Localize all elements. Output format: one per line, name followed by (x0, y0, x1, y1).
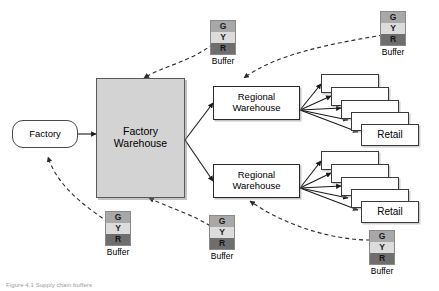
buffer-band-red: R (210, 238, 234, 249)
buffer-factory: G Y R Buffer (105, 211, 131, 257)
node-factory: Factory (12, 120, 78, 148)
buffer-band-yellow: Y (210, 227, 234, 238)
node-regional-warehouse-top: Regional Warehouse (213, 86, 300, 120)
retail-stack-top-front: Retail (361, 124, 419, 146)
buffer-band-green: G (211, 21, 235, 32)
buffer-stack: G Y R (380, 11, 406, 46)
buffer-band-yellow: Y (106, 223, 130, 234)
buffer-caption: Buffer (374, 47, 406, 57)
node-factory-label: Factory (29, 129, 61, 140)
retail-top-label: Retail (377, 129, 403, 140)
buffer-band-red: R (381, 34, 405, 45)
buffer-band-green: G (381, 12, 405, 23)
buffer-stack: G Y R (209, 215, 235, 250)
node-factory-warehouse-label: Factory Warehouse (114, 126, 167, 150)
buffer-stack: G Y R (105, 211, 131, 246)
buffer-stack: G Y R (210, 20, 236, 55)
buffer-band-green: G (210, 216, 234, 227)
buffer-caption: Buffer (363, 266, 395, 276)
buffer-band-green: G (370, 231, 394, 242)
buffer-band-red: R (211, 43, 235, 54)
node-regional-warehouse-bottom: Regional Warehouse (213, 164, 300, 198)
buffer-band-green: G (106, 212, 130, 223)
supply-chain-diagram: Factory Factory Warehouse Regional Wareh… (0, 0, 439, 291)
figure-caption: Figure 4.1 Supply chain buffers (6, 282, 92, 288)
node-factory-warehouse: Factory Warehouse (96, 78, 185, 198)
buffer-regional-top: G Y R Buffer (380, 11, 406, 57)
buffer-band-red: R (106, 234, 130, 245)
retail-stack-bottom-front: Retail (361, 201, 419, 223)
node-regional-warehouse-bottom-label: Regional Warehouse (232, 170, 280, 191)
retail-bottom-label: Retail (377, 206, 403, 217)
buffer-factory-warehouse-top: G Y R Buffer (210, 20, 236, 66)
buffer-band-yellow: Y (211, 32, 235, 43)
buffer-regional-bottom: G Y R Buffer (369, 230, 395, 276)
buffer-band-yellow: Y (370, 242, 394, 253)
buffer-band-red: R (370, 253, 394, 264)
buffer-caption: Buffer (204, 56, 236, 66)
buffer-stack: G Y R (369, 230, 395, 265)
buffer-band-yellow: Y (381, 23, 405, 34)
buffer-factory-warehouse-bottom: G Y R Buffer (209, 215, 235, 261)
node-regional-warehouse-top-label: Regional Warehouse (232, 92, 280, 113)
buffer-caption: Buffer (99, 247, 131, 257)
buffer-caption: Buffer (203, 251, 235, 261)
